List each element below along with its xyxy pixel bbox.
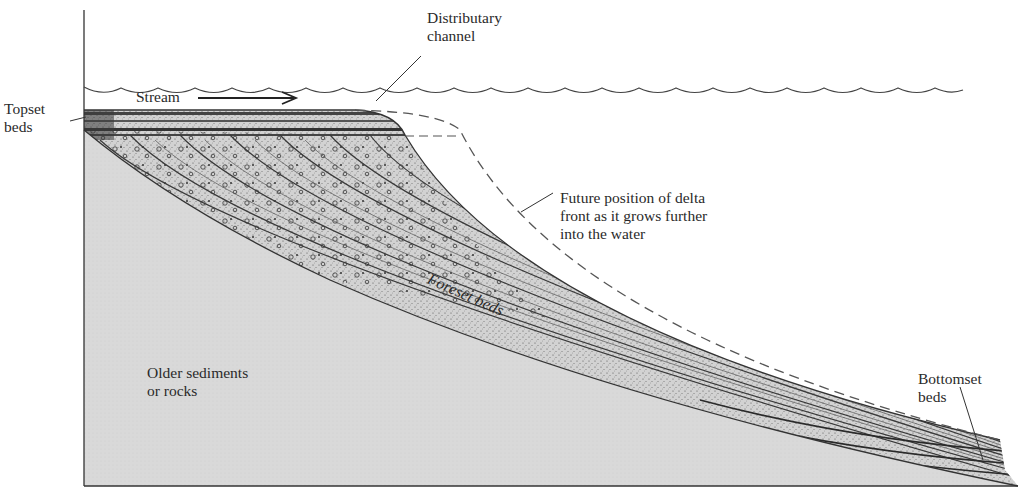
distributary-label-line1: Distributary <box>427 9 502 27</box>
older-label-line2: or rocks <box>147 382 248 400</box>
water-surface-line <box>84 87 963 93</box>
distributary-label-line2: channel <box>427 27 502 45</box>
bottomset-label-line1: Bottomset <box>918 370 982 388</box>
delta-cross-section-diagram <box>0 0 1032 499</box>
topset-label-line2: beds <box>4 118 45 136</box>
topset-beds-label: Topset beds <box>4 100 45 136</box>
stream-label: Stream <box>136 88 180 106</box>
future-front-label: Future position of delta front as it gro… <box>560 189 707 243</box>
distributary-channel-label: Distributary channel <box>427 9 502 45</box>
older-sediments-label: Older sediments or rocks <box>147 364 248 400</box>
distributary-leader-line <box>376 56 421 101</box>
older-label-line1: Older sediments <box>147 364 248 382</box>
future-front-leader-line <box>521 193 553 212</box>
future-label-line3: into the water <box>560 225 707 243</box>
future-label-line1: Future position of delta <box>560 189 707 207</box>
topset-label-line1: Topset <box>4 100 45 118</box>
bottomset-label-line2: beds <box>918 388 982 406</box>
future-label-line2: front as it grows further <box>560 207 707 225</box>
stream-arrow-icon <box>198 92 296 104</box>
bottomset-beds-label: Bottomset beds <box>918 370 982 406</box>
